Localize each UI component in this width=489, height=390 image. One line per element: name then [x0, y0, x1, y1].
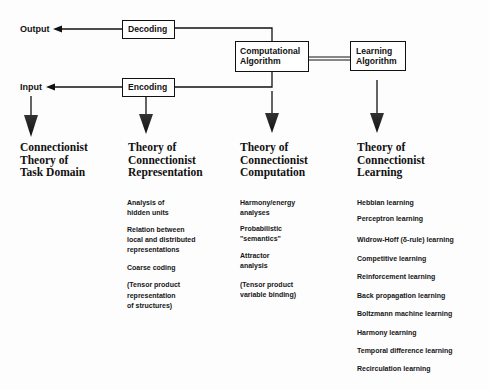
learning-item: Temporal difference learning — [357, 346, 453, 356]
double-link — [309, 57, 350, 60]
learning-item: Boltzmann machine learning — [357, 309, 452, 319]
computation-item: Attractor analysis — [240, 251, 270, 271]
learning-item: Reinforcement learning — [357, 272, 435, 282]
encoding-connector — [175, 72, 272, 87]
learning-item: Recirculation learning — [357, 364, 431, 374]
learning-item: Competitive learning — [357, 254, 426, 264]
decoding-box: Decoding — [122, 20, 175, 39]
learning-item: Hebbian learning — [357, 198, 414, 208]
encoding-box: Encoding — [122, 78, 175, 97]
output-arrow — [53, 26, 122, 33]
down-arrow-computation — [265, 91, 279, 133]
computation-item: Harmony/energy analyses — [240, 198, 295, 218]
learning-item: Back propagation learning — [357, 291, 445, 301]
computation-item: (Tensor product variable binding) — [240, 280, 296, 300]
heading-representation: Theory of Connectionist Representation — [128, 141, 203, 179]
heading-computation: Theory of Connectionist Computation — [240, 141, 308, 179]
learning-algorithm-box: Learning Algorithm — [350, 41, 406, 71]
heading-learning: Theory of Connectionist Learning — [357, 141, 425, 179]
input-label: Input — [20, 82, 42, 92]
learning-item: Perceptron learning — [357, 214, 423, 224]
down-arrow-learning — [370, 80, 384, 133]
down-arrow-representation — [139, 97, 153, 134]
representation-item: Relation between local and distributed r… — [127, 225, 195, 255]
representation-item: Analysis of hidden units — [127, 198, 169, 218]
computational-algorithm-box: Computational Algorithm — [235, 41, 309, 72]
output-label: Output — [20, 24, 50, 34]
down-arrow-task-domain — [24, 96, 38, 137]
learning-item: Widrow-Hoff (δ-rule) learning — [357, 235, 454, 245]
representation-item: Coarse coding — [127, 263, 176, 273]
heading-task-domain: Connectionist Theory of Task Domain — [20, 141, 88, 179]
decoding-connector — [175, 28, 272, 41]
input-arrow — [46, 84, 122, 91]
learning-item: Harmony learning — [357, 328, 417, 338]
representation-item: (Tensor product representation of struct… — [127, 280, 180, 312]
connectionist-theory-diagram: Output Input Decoding Encoding Computati… — [0, 0, 489, 390]
computation-item: Probabilistic "semantics" — [240, 224, 282, 244]
